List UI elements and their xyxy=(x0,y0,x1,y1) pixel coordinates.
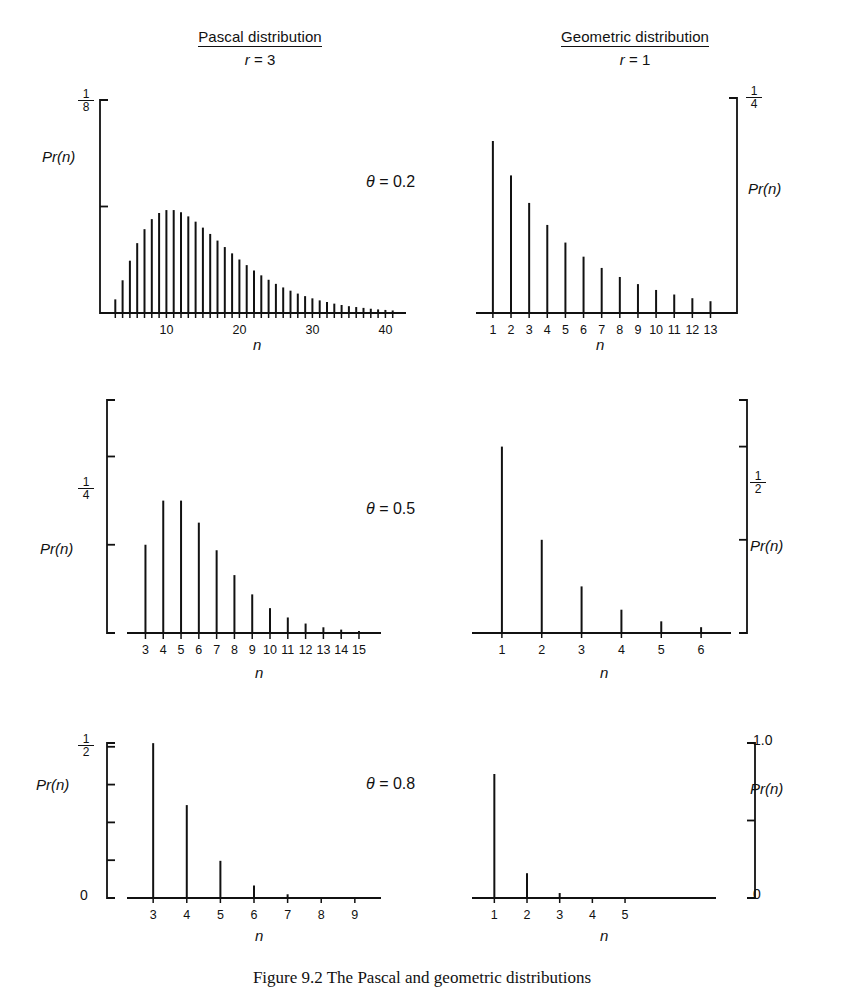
x-tick-label: 1 xyxy=(489,323,496,337)
x-tick-label: 3 xyxy=(556,908,563,922)
y-axis-bracket xyxy=(729,98,737,313)
y-axis-bracket xyxy=(107,743,115,898)
x-tick-label: 8 xyxy=(231,643,238,657)
x-tick-label: 9 xyxy=(351,908,358,922)
x-tick-label: 6 xyxy=(698,643,705,657)
y-axis-bracket xyxy=(107,400,115,633)
ytick-label-top-panel5: 1.0 xyxy=(753,732,772,748)
x-tick-label: 5 xyxy=(178,643,185,657)
x-tick-label: 6 xyxy=(251,908,258,922)
x-tick-label: 4 xyxy=(618,643,625,657)
column-header-pascal-title: Pascal distribution xyxy=(198,28,322,47)
x-tick-label: 9 xyxy=(634,323,641,337)
x-tick-label: 15 xyxy=(352,643,366,657)
x-tick-label: 4 xyxy=(160,643,167,657)
ytick-label-top-panel4: 1 2 xyxy=(78,733,94,758)
xaxis-label-panel0: n xyxy=(253,336,261,353)
column-header-pascal-param: r = 3 xyxy=(130,51,390,68)
yaxis-label-panel1: Pr(n) xyxy=(748,180,781,197)
x-tick-label: 7 xyxy=(213,643,220,657)
x-tick-label: 10 xyxy=(263,643,277,657)
x-tick-label: 12 xyxy=(685,323,699,337)
x-tick-label: 2 xyxy=(508,323,515,337)
x-tick-label: 13 xyxy=(316,643,330,657)
x-tick-label: 2 xyxy=(538,643,545,657)
x-tick-label: 5 xyxy=(658,643,665,657)
xaxis-label-panel4: n xyxy=(255,927,263,944)
x-tick-label: 10 xyxy=(649,323,663,337)
column-header-geometric-title: Geometric distribution xyxy=(561,28,709,47)
x-tick-label: 13 xyxy=(704,323,718,337)
x-tick-label: 4 xyxy=(183,908,190,922)
figure-caption: Figure 9.2 The Pascal and geometric dist… xyxy=(0,968,844,987)
x-tick-label: 5 xyxy=(622,908,629,922)
x-tick-label: 10 xyxy=(159,323,173,337)
xaxis-label-panel1: n xyxy=(596,336,604,353)
x-tick-label: 2 xyxy=(524,908,531,922)
x-tick-label: 7 xyxy=(598,323,605,337)
x-tick-label: 9 xyxy=(249,643,256,657)
column-header-geometric-param: r = 1 xyxy=(500,51,770,68)
x-tick-label: 20 xyxy=(232,323,246,337)
x-tick-label: 3 xyxy=(150,908,157,922)
x-tick-label: 40 xyxy=(378,323,392,337)
xaxis-label-panel5: n xyxy=(600,927,608,944)
x-tick-label: 5 xyxy=(562,323,569,337)
y-axis-bracket xyxy=(739,400,747,633)
x-tick-label: 4 xyxy=(589,908,596,922)
xaxis-label-panel3: n xyxy=(600,664,608,681)
x-tick-label: 7 xyxy=(284,908,291,922)
yaxis-label-panel4: Pr(n) xyxy=(36,776,69,793)
ytick-label-top-panel3: 1 2 xyxy=(750,470,766,495)
ytick-label-mid-panel2: 1 4 xyxy=(78,476,94,501)
column-header-geometric: Geometric distribution r = 1 xyxy=(500,28,770,68)
x-tick-label: 6 xyxy=(580,323,587,337)
yaxis-label-panel5: Pr(n) xyxy=(750,780,783,797)
ytick-label-bottom-panel5: 0 xyxy=(753,886,761,902)
ytick-label-top-panel1: 1 4 xyxy=(746,85,762,110)
x-tick-label: 5 xyxy=(217,908,224,922)
x-tick-label: 11 xyxy=(281,643,294,657)
x-tick-label: 3 xyxy=(526,323,533,337)
x-tick-label: 30 xyxy=(305,323,319,337)
ytick-label-top-panel0: 1 8 xyxy=(78,88,94,113)
yaxis-label-panel3: Pr(n) xyxy=(750,537,783,554)
x-tick-label: 6 xyxy=(195,643,202,657)
yaxis-label-panel2: Pr(n) xyxy=(40,540,73,557)
xaxis-label-panel2: n xyxy=(255,664,263,681)
x-tick-label: 11 xyxy=(668,323,681,337)
column-header-pascal: Pascal distribution r = 3 xyxy=(130,28,390,68)
x-tick-label: 1 xyxy=(498,643,505,657)
x-tick-label: 3 xyxy=(578,643,585,657)
x-tick-label: 1 xyxy=(491,908,498,922)
x-tick-label: 8 xyxy=(318,908,325,922)
x-tick-label: 4 xyxy=(544,323,551,337)
x-tick-label: 14 xyxy=(334,643,348,657)
yaxis-label-panel0: Pr(n) xyxy=(42,148,75,165)
ytick-label-bottom-panel4: 0 xyxy=(80,887,88,903)
x-tick-label: 12 xyxy=(299,643,313,657)
x-tick-label: 3 xyxy=(142,643,149,657)
figure-root: Pascal distribution r = 3 Geometric dist… xyxy=(0,0,844,987)
x-tick-label: 8 xyxy=(616,323,623,337)
